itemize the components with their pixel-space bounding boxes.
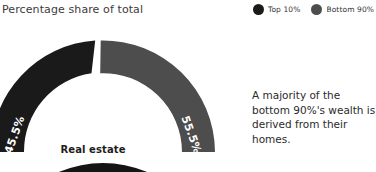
chart-legend: Top 10% Bottom 90% (253, 4, 374, 15)
gauge-svg: 45.5% 55.5% (0, 40, 216, 160)
gauge-center-label: Real estate (0, 144, 196, 155)
page-title: Percentage share of total (2, 3, 143, 16)
chart-annotation: A majority of the bottom 90%'s wealth is… (252, 88, 376, 146)
circle-icon (253, 4, 264, 15)
legend-item-top-10[interactable]: Top 10% (253, 4, 300, 15)
legend-label-bottom-90: Bottom 90% (326, 5, 374, 14)
legend-item-bottom-90[interactable]: Bottom 90% (311, 4, 374, 15)
chart-page: Percentage share of total Top 10% Bottom… (0, 0, 376, 172)
gauge-chart: 45.5% 55.5% Real estate (0, 40, 216, 160)
circle-icon (311, 4, 322, 15)
legend-label-top-10: Top 10% (268, 5, 300, 14)
next-chart-arc (0, 163, 215, 172)
next-chart-partial (0, 163, 216, 172)
next-chart-svg (0, 163, 216, 172)
